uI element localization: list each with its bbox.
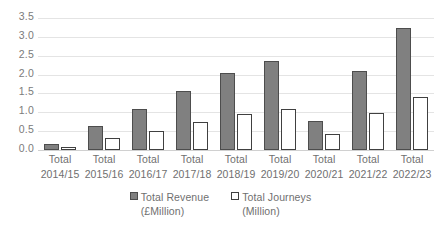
bar-total-journeys[interactable] — [325, 134, 340, 150]
bar-group — [170, 18, 214, 150]
x-axis-tick-label-line: 2015/16 — [82, 167, 126, 182]
bar-total-revenue[interactable] — [220, 73, 235, 150]
x-axis-tick-label: Total2018/19 — [214, 152, 258, 188]
bar-total-revenue[interactable] — [308, 121, 323, 150]
x-axis-tick-label: Total2015/16 — [82, 152, 126, 188]
bar-total-revenue[interactable] — [88, 126, 103, 150]
x-axis-tick-label-line: 2017/18 — [170, 167, 214, 182]
y-axis-tick-label: 3.0 — [0, 30, 34, 41]
bar-total-journeys[interactable] — [413, 97, 428, 150]
x-axis-tick-label: Total2019/20 — [258, 152, 302, 188]
x-axis-tick-label-line: Total — [214, 152, 258, 167]
bar-total-revenue[interactable] — [176, 91, 191, 150]
bar-total-journeys[interactable] — [61, 147, 76, 150]
bar-total-journeys[interactable] — [281, 109, 296, 150]
gridline — [38, 150, 434, 151]
bar-total-journeys[interactable] — [237, 114, 252, 150]
x-axis-tick-label-line: 2019/20 — [258, 167, 302, 182]
y-axis-tick-label: 3.5 — [0, 11, 34, 22]
bar-total-revenue[interactable] — [44, 144, 59, 150]
chart-legend: Total Revenue(£Million)Total Journeys(Mi… — [0, 190, 441, 218]
bar-total-revenue[interactable] — [132, 109, 147, 150]
x-axis-tick-label-line: Total — [170, 152, 214, 167]
bars-layer — [38, 18, 434, 150]
x-axis-tick-label: Total2014/15 — [38, 152, 82, 188]
x-axis-tick-label-line: 2018/19 — [214, 167, 258, 182]
y-axis-tick-label: 2.0 — [0, 68, 34, 79]
bar-total-revenue[interactable] — [396, 28, 411, 150]
x-axis-tick-label-line: 2021/22 — [346, 167, 390, 182]
x-axis-tick-label-line: Total — [302, 152, 346, 167]
x-axis-tick-label-line: 2020/21 — [302, 167, 346, 182]
legend-item[interactable]: Total Journeys(Million) — [231, 190, 311, 218]
bar-group — [390, 18, 434, 150]
legend-unit: (Million) — [242, 204, 311, 218]
y-axis-tick-label: 1.0 — [0, 105, 34, 116]
bar-group — [302, 18, 346, 150]
x-axis-tick-label-line: Total — [346, 152, 390, 167]
bar-group — [126, 18, 170, 150]
bar-total-journeys[interactable] — [193, 122, 208, 150]
bar-group — [346, 18, 390, 150]
x-axis-tick-label: Total2017/18 — [170, 152, 214, 188]
x-axis-tick-label-line: Total — [82, 152, 126, 167]
x-axis-tick-label-line: 2014/15 — [38, 167, 82, 182]
x-axis-tick-label: Total2022/23 — [390, 152, 434, 188]
x-axis-tick-label-line: Total — [126, 152, 170, 167]
bar-total-revenue[interactable] — [264, 61, 279, 150]
y-axis-tick-label: 0.0 — [0, 143, 34, 154]
x-axis-tick-label-line: 2016/17 — [126, 167, 170, 182]
bar-total-journeys[interactable] — [149, 131, 164, 150]
y-axis-tick-label: 0.5 — [0, 124, 34, 135]
x-axis-tick-label: Total2016/17 — [126, 152, 170, 188]
x-axis-tick-label: Total2021/22 — [346, 152, 390, 188]
legend-label: Total Revenue(£Million) — [141, 190, 209, 218]
y-axis-tick-label: 2.5 — [0, 49, 34, 60]
plot-area — [38, 18, 434, 150]
legend-label: Total Journeys(Million) — [242, 190, 311, 218]
x-axis-tick-label: Total2020/21 — [302, 152, 346, 188]
legend-item[interactable]: Total Revenue(£Million) — [130, 190, 209, 218]
bar-group — [258, 18, 302, 150]
y-axis: 3.53.02.52.01.51.00.50.0 — [0, 11, 34, 157]
legend-swatch-journeys-icon — [231, 192, 239, 200]
legend-swatch-revenue-icon — [130, 192, 138, 200]
x-axis-tick-label-line: 2022/23 — [390, 167, 434, 182]
x-axis: Total2014/15Total2015/16Total2016/17Tota… — [38, 152, 434, 188]
bar-chart: 3.53.02.52.01.51.00.50.0 Total2014/15Tot… — [0, 0, 441, 235]
bar-group — [214, 18, 258, 150]
x-axis-tick-label-line: Total — [258, 152, 302, 167]
bar-total-journeys[interactable] — [369, 113, 384, 150]
bar-group — [82, 18, 126, 150]
bar-group — [38, 18, 82, 150]
x-axis-tick-label-line: Total — [38, 152, 82, 167]
x-axis-tick-label-line: Total — [390, 152, 434, 167]
legend-unit: (£Million) — [141, 204, 209, 218]
bar-total-revenue[interactable] — [352, 71, 367, 150]
y-axis-tick-label: 1.5 — [0, 86, 34, 97]
bar-total-journeys[interactable] — [105, 138, 120, 150]
